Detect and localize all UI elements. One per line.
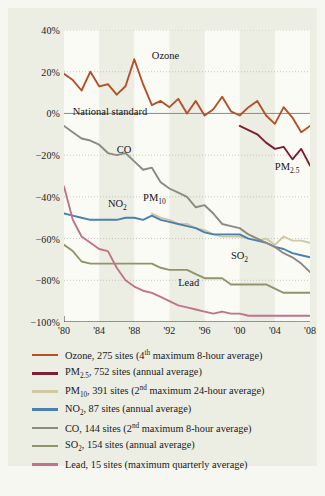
legend-swatch <box>32 408 58 411</box>
annotation-no2: NO2 <box>108 198 127 212</box>
y-tick-label: 20% <box>16 66 60 77</box>
x-tick-label: '96 <box>199 325 211 336</box>
legend-swatch <box>32 427 58 430</box>
annotation-lead: Lead <box>178 277 199 288</box>
y-tick-label: −100% <box>16 317 60 328</box>
legend-item-so2[interactable]: SO2, 154 sites (annual average) <box>32 437 307 455</box>
x-tick-label: '00 <box>234 325 246 336</box>
annotation-nationalstandard: National standard <box>73 106 147 117</box>
background-band <box>64 30 99 322</box>
legend-label: PM10, 391 sites (2nd maximum 24-hour ave… <box>65 384 264 399</box>
x-tick-label: '04 <box>269 325 281 336</box>
y-axis-labels: 40%20%0%−20%−40%−60%−80%−100% <box>8 30 60 322</box>
legend-label: CO, 144 sites (2nd maximum 8-hour averag… <box>65 422 252 434</box>
legend-swatch <box>32 372 58 375</box>
x-tick-label: '08 <box>304 325 316 336</box>
legend-swatch <box>32 354 58 357</box>
series-line-lead <box>64 186 310 315</box>
background-band <box>275 30 310 322</box>
annotation-so2: SO2 <box>231 250 248 264</box>
legend-item-ozone[interactable]: Ozone, 275 sites (4th maximum 8-hour ave… <box>32 346 307 364</box>
legend-swatch <box>32 445 58 448</box>
x-tick-label: '88 <box>128 325 140 336</box>
figure-root: 40%20%0%−20%−40%−60%−80%−100% '80'84'88'… <box>0 0 325 496</box>
y-tick-label: 40% <box>16 25 60 36</box>
chart-legend: Ozone, 275 sites (4th maximum 8-hour ave… <box>32 346 307 473</box>
series-line-no2 <box>64 214 310 258</box>
x-axis-labels: '80'84'88'92'96'00'04'08 <box>64 325 314 341</box>
legend-label: Lead, 15 sites (maximum quarterly averag… <box>65 459 247 470</box>
legend-item-no2[interactable]: NO2, 87 sites (annual average) <box>32 401 307 419</box>
legend-label: Ozone, 275 sites (4th maximum 8-hour ave… <box>65 349 262 361</box>
x-tick-label: '80 <box>58 325 70 336</box>
legend-swatch <box>32 390 58 393</box>
annotation-pm10: PM10 <box>143 192 166 206</box>
y-tick-label: −20% <box>16 150 60 161</box>
y-tick-label: −80% <box>16 275 60 286</box>
legend-item-pm25[interactable]: PM2.5, 752 sites (annual average) <box>32 364 307 382</box>
annotation-pm25: PM2.5 <box>275 161 300 175</box>
annotation-co: CO <box>117 144 132 155</box>
legend-label: SO2, 154 sites (annual average) <box>65 439 195 453</box>
x-tick-label: '84 <box>93 325 105 336</box>
chart-card: 40%20%0%−20%−40%−60%−80%−100% '80'84'88'… <box>8 8 317 466</box>
legend-item-lead[interactable]: Lead, 15 sites (maximum quarterly averag… <box>32 455 307 473</box>
legend-label: PM2.5, 752 sites (annual average) <box>65 366 202 380</box>
legend-item-pm10[interactable]: PM10, 391 sites (2nd maximum 24-hour ave… <box>32 382 307 400</box>
x-tick-label: '92 <box>164 325 176 336</box>
y-tick-label: 0% <box>16 108 60 119</box>
legend-swatch <box>32 463 58 466</box>
annotation-ozone: Ozone <box>152 50 179 61</box>
y-tick-label: −40% <box>16 191 60 202</box>
y-tick-label: −60% <box>16 233 60 244</box>
legend-item-co[interactable]: CO, 144 sites (2nd maximum 8-hour averag… <box>32 419 307 437</box>
series-line-ozone <box>64 59 310 132</box>
legend-label: NO2, 87 sites (annual average) <box>65 403 191 417</box>
